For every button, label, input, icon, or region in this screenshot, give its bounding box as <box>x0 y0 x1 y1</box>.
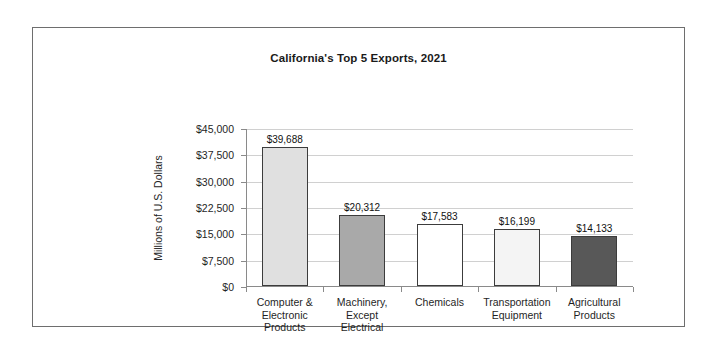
y-tick-label: $45,000 <box>164 123 234 135</box>
category-label-line: Equipment <box>472 309 561 322</box>
gridline <box>246 129 633 130</box>
category-label-line: Transportation <box>472 296 561 309</box>
y-tick-label: $30,000 <box>164 176 234 188</box>
bar-value-label: $17,583 <box>400 211 480 222</box>
category-label-line: Electronic <box>240 309 329 322</box>
bar[interactable] <box>494 229 540 286</box>
x-tick-mark <box>633 287 634 292</box>
category-label-line: Products <box>550 309 639 322</box>
category-label-line: Machinery, <box>317 296 406 309</box>
x-tick-mark <box>556 287 557 292</box>
category-label: Chemicals <box>395 296 484 309</box>
y-axis-title: Millions of U.S. Dollars <box>151 129 165 287</box>
chart-title: California's Top 5 Exports, 2021 <box>33 52 684 64</box>
category-label: TransportationEquipment <box>472 296 561 321</box>
y-tick-label: $22,500 <box>164 202 234 214</box>
category-label-line: Computer & <box>240 296 329 309</box>
bar[interactable] <box>571 236 617 286</box>
y-tick-label: $15,000 <box>164 228 234 240</box>
category-label-line: Products <box>240 321 329 334</box>
x-axis-line <box>246 286 633 287</box>
bar-value-label: $14,133 <box>554 223 634 234</box>
y-axis-line <box>246 129 247 287</box>
x-tick-mark <box>323 287 324 292</box>
category-label-line: Chemicals <box>395 296 484 309</box>
bar-value-label: $39,688 <box>245 134 325 145</box>
category-label: AgriculturalProducts <box>550 296 639 321</box>
plot-area: $0$7,500$15,000$22,500$30,000$37,500$45,… <box>246 129 633 287</box>
category-label-line: Electrical <box>317 321 406 334</box>
chart-frame: California's Top 5 Exports, 2021 Million… <box>32 27 685 327</box>
y-tick-label: $0 <box>164 281 234 293</box>
y-tick-label: $37,500 <box>164 149 234 161</box>
bar[interactable] <box>417 224 463 286</box>
category-label: Machinery,ExceptElectrical <box>317 296 406 334</box>
y-tick-label: $7,500 <box>164 255 234 267</box>
category-label-line: Agricultural <box>550 296 639 309</box>
category-label: Computer &ElectronicProducts <box>240 296 329 334</box>
bar-value-label: $16,199 <box>477 216 557 227</box>
bar-value-label: $20,312 <box>322 202 402 213</box>
bar[interactable] <box>339 215 385 286</box>
x-tick-mark <box>478 287 479 292</box>
bar[interactable] <box>262 147 308 286</box>
category-label-line: Except <box>317 309 406 322</box>
x-tick-mark <box>401 287 402 292</box>
x-tick-mark <box>246 287 247 292</box>
